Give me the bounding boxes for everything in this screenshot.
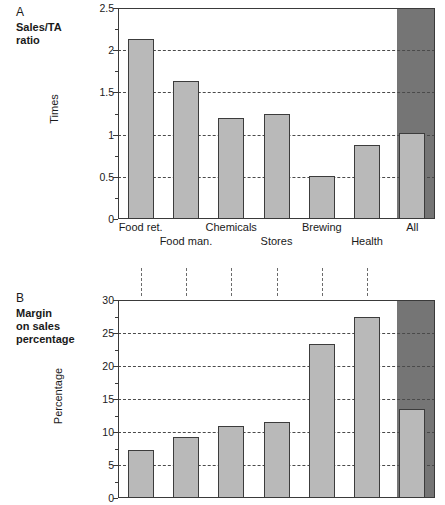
figure-container: A Sales/TA ratio B Margin on sales perce… (0, 0, 445, 505)
y-axis-tick (113, 432, 118, 433)
y-axis-minor-tick (115, 156, 118, 157)
bar-all (399, 409, 425, 498)
bar-food-ret (128, 450, 154, 498)
panel-b-title-line2: on sales (16, 320, 75, 333)
y-axis-tick (113, 399, 118, 400)
panel-a-y-tick-labels: 00.511.522.5 (80, 8, 114, 219)
y-axis-minor-tick (115, 198, 118, 199)
x-axis-labels-row2: Food man.StoresHealth (118, 235, 435, 249)
x-axis-label-food-ret: Food ret. (119, 221, 163, 233)
x-axis-label-all: All (406, 221, 418, 233)
bar-brewing (309, 344, 335, 498)
y-axis-tick (113, 219, 118, 220)
bar-brewing (309, 176, 335, 219)
y-axis-tick-label: 2.5 (99, 2, 114, 14)
x-axis-label-brewing: Brewing (302, 221, 342, 233)
y-axis-minor-tick (115, 449, 118, 450)
panel-connector-dash (231, 268, 232, 296)
gridline (118, 50, 435, 51)
y-axis-minor-tick (115, 317, 118, 318)
y-axis-minor-tick (115, 482, 118, 483)
panel-b-plot-area (118, 300, 435, 498)
y-axis-tick (113, 333, 118, 334)
y-axis-tick (113, 177, 118, 178)
y-axis-tick (113, 135, 118, 136)
x-axis-label-health: Health (351, 235, 383, 247)
gridline (118, 333, 435, 334)
gridline (118, 92, 435, 93)
y-axis-tick (113, 8, 118, 9)
panel-connector-lines (118, 268, 435, 296)
x-axis-label-food-man: Food man. (160, 235, 213, 247)
bar-chemicals (218, 426, 244, 498)
panel-b-letter: B (16, 292, 75, 305)
y-axis-tick (113, 300, 118, 301)
y-axis-minor-tick (115, 350, 118, 351)
y-axis-tick (113, 366, 118, 367)
panel-b-y-tick-labels: 051015202530 (80, 300, 114, 498)
y-axis-tick-label: 0.5 (99, 171, 114, 183)
y-axis-minor-tick (115, 29, 118, 30)
panel-connector-dash (367, 268, 368, 296)
y-axis-minor-tick (115, 416, 118, 417)
panel-a-y-axis-title: Times (48, 49, 60, 169)
panel-connector-dash (186, 268, 187, 296)
panel-a-plot-area (118, 8, 435, 219)
y-axis-tick (113, 50, 118, 51)
panel-a-caption: A Sales/TA ratio (16, 6, 62, 47)
panel-a-title-line1: Sales/TA (16, 21, 62, 34)
panel-connector-dash (277, 268, 278, 296)
y-axis-tick (113, 465, 118, 466)
y-axis-minor-tick (115, 114, 118, 115)
panel-b-y-axis-title: Percentage (52, 336, 64, 456)
bar-food-ret (128, 39, 154, 219)
panel-b-caption: B Margin on sales percentage (16, 292, 75, 346)
bar-health (354, 317, 380, 498)
panel-a-title-line2: ratio (16, 34, 62, 47)
y-axis-tick (113, 498, 118, 499)
y-axis-tick-label: 1.5 (99, 86, 114, 98)
y-axis-minor-tick (115, 71, 118, 72)
bar-stores (264, 114, 290, 220)
panel-connector-dash (141, 268, 142, 296)
x-axis-label-stores: Stores (261, 235, 293, 247)
bar-chemicals (218, 118, 244, 219)
bar-food-man (173, 81, 199, 219)
panel-b-title-line3: percentage (16, 333, 75, 346)
bar-food-man (173, 437, 199, 498)
panel-b-title-line1: Margin (16, 307, 75, 320)
gridline (118, 399, 435, 400)
panel-a-letter: A (16, 6, 62, 19)
y-axis-minor-tick (115, 383, 118, 384)
x-axis-labels-row1: Food ret.ChemicalsBrewingAll (118, 221, 435, 235)
bar-health (354, 145, 380, 219)
x-axis-label-chemicals: Chemicals (206, 221, 257, 233)
bar-all (399, 133, 425, 219)
y-axis-tick (113, 92, 118, 93)
panel-connector-dash (322, 268, 323, 296)
gridline (118, 366, 435, 367)
bar-stores (264, 422, 290, 498)
